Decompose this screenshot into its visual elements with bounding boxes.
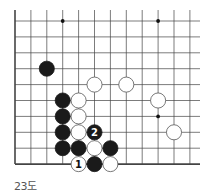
star-point-icon [156, 115, 160, 119]
white-stone [103, 157, 118, 172]
black-stone [103, 141, 118, 156]
black-stone [55, 109, 70, 124]
white-stone [166, 125, 181, 140]
white-stone [87, 77, 102, 92]
white-stone [119, 77, 134, 92]
black-stone [55, 93, 70, 108]
move-number-label: 2 [91, 127, 98, 138]
black-stone [71, 141, 86, 156]
star-point-icon [156, 19, 160, 23]
go-board-diagram: 21 [0, 0, 209, 175]
black-stone [87, 157, 102, 172]
star-point-icon [61, 19, 65, 23]
black-stone [55, 125, 70, 140]
move-number-label: 1 [75, 159, 82, 170]
black-stone [55, 141, 70, 156]
diagram-caption: 23도 [14, 177, 37, 193]
white-stone [71, 93, 86, 108]
white-stone [87, 141, 102, 156]
white-stone: 1 [71, 157, 86, 172]
white-stone [151, 93, 166, 108]
black-stone: 2 [87, 125, 102, 140]
white-stone [71, 109, 86, 124]
black-stone [39, 61, 54, 76]
white-stone [71, 125, 86, 140]
